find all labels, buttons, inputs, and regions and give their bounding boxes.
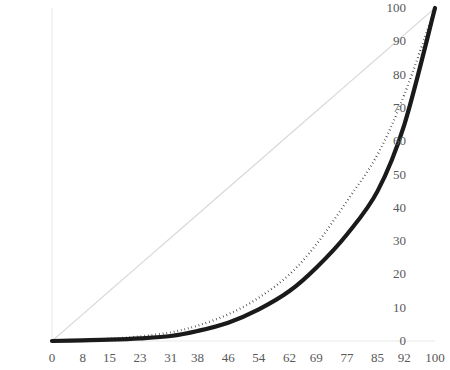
y-tick-label: 90: [366, 34, 406, 47]
y-tick-label: 60: [366, 134, 406, 147]
x-tick-label: 54: [242, 351, 276, 364]
x-tick-label: 23: [123, 351, 157, 364]
x-tick-label: 46: [211, 351, 245, 364]
x-tick-label: 38: [181, 351, 215, 364]
y-tick-label: 70: [366, 101, 406, 114]
y-tick-label: 10: [366, 301, 406, 314]
x-tick-label: 92: [387, 351, 421, 364]
x-tick-label: 15: [92, 351, 126, 364]
x-tick-label: 100: [418, 351, 450, 364]
y-tick-label: 100: [366, 1, 406, 14]
y-tick-label: 50: [366, 168, 406, 181]
chart-plot-area: [0, 0, 450, 370]
y-tick-label: 80: [366, 68, 406, 81]
x-tick-label: 77: [330, 351, 364, 364]
y-tick-label: 40: [366, 201, 406, 214]
lorenz-curve-chart: 1009080706050403020100 08152331384654626…: [0, 0, 450, 370]
y-tick-label: 0: [366, 334, 406, 347]
x-tick-label: 69: [299, 351, 333, 364]
x-tick-label: 0: [35, 351, 69, 364]
y-tick-label: 20: [366, 267, 406, 280]
y-tick-label: 30: [366, 234, 406, 247]
